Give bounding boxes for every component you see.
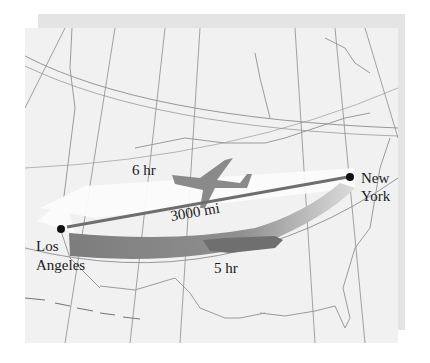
border-dashed-line: [25, 298, 140, 319]
los-angeles-label-line2: Angeles: [36, 257, 85, 273]
map-graphic: [25, 28, 398, 343]
los-angeles-label-line1: Los: [36, 238, 59, 254]
los-angeles-marker: [57, 225, 65, 233]
eastbound-duration-label: 5 hr: [214, 260, 238, 276]
new-york-label-line2: York: [361, 188, 390, 204]
latitude-gridlines: [25, 56, 398, 263]
westbound-duration-label: 6 hr: [132, 162, 156, 178]
map-panel: [25, 28, 398, 343]
new-york-label-line1: New: [361, 170, 389, 186]
new-york-marker: [346, 173, 354, 181]
